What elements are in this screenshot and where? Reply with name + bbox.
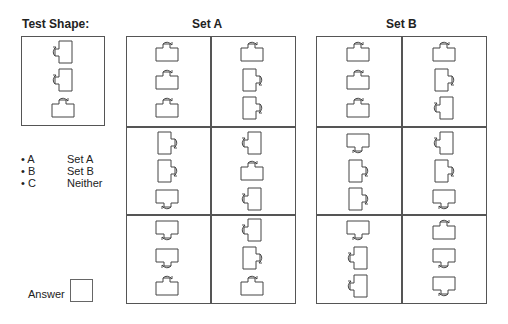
answer-label: Answer — [28, 288, 65, 300]
shape-up-icon — [341, 91, 375, 125]
shape-up-icon — [235, 269, 269, 303]
answer-input[interactable] — [70, 279, 93, 302]
set-a-col-divider — [210, 36, 212, 304]
option-a[interactable]: • ASet A — [21, 153, 102, 165]
shape-right-icon — [341, 182, 375, 216]
shape-left-icon — [341, 269, 375, 303]
option-b[interactable]: • BSet B — [21, 165, 102, 177]
set-b-title: Set B — [386, 17, 417, 31]
shape-up-icon — [150, 269, 184, 303]
set-b-col-divider — [401, 36, 403, 304]
shape-down-icon — [150, 182, 184, 216]
set-a-title: Set A — [192, 17, 222, 31]
option-c[interactable]: • CNeither — [21, 177, 102, 189]
shape-left-icon — [235, 182, 269, 216]
shape-left-icon — [427, 91, 461, 125]
shape-up-icon — [150, 91, 184, 125]
test-shape-title: Test Shape: — [22, 17, 89, 31]
shape-down-icon — [427, 182, 461, 216]
shape-right-icon — [235, 91, 269, 125]
shape-up-icon — [46, 91, 80, 125]
shape-down-icon — [427, 269, 461, 303]
answer-options: • ASet A • BSet B • CNeither — [21, 153, 102, 189]
